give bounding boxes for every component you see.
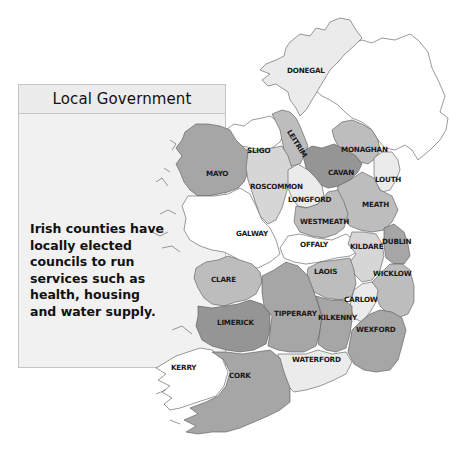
label-dublin: DUBLIN [382, 237, 412, 246]
label-longford: LONGFORD [288, 195, 332, 204]
label-cavan: CAVAN [328, 168, 354, 177]
label-monaghan: MONAGHAN [341, 145, 388, 154]
label-carlow: CARLOW [344, 295, 378, 304]
county-kilkenny [316, 296, 352, 352]
label-sligo: SLIGO [247, 146, 271, 155]
label-cork: CORK [229, 371, 251, 380]
label-galway: GALWAY [236, 229, 269, 238]
label-wicklow: WICKLOW [373, 269, 412, 278]
label-westmeath: WESTMEATH [300, 217, 349, 226]
label-donegal: DONEGAL [287, 66, 325, 75]
label-roscommon: ROSCOMMON [250, 182, 303, 191]
label-offaly: OFFALY [300, 240, 329, 249]
label-kildare: KILDARE [350, 242, 384, 251]
label-laois: LAOIS [314, 267, 337, 276]
label-clare: CLARE [211, 275, 236, 284]
label-meath: MEATH [362, 200, 389, 209]
label-louth: LOUTH [375, 175, 401, 184]
ireland-county-map: DONEGAL SLIGO LEITRIM MONAGHAN MAYO CAVA… [0, 0, 470, 451]
label-kilkenny: KILKENNY [318, 313, 358, 322]
label-kerry: KERRY [171, 363, 197, 372]
label-limerick: LIMERICK [217, 318, 254, 327]
label-mayo: MAYO [206, 169, 228, 178]
label-waterford: WATERFORD [292, 355, 341, 364]
label-wexford: WEXFORD [356, 325, 396, 334]
label-tipperary: TIPPERARY [274, 309, 318, 318]
